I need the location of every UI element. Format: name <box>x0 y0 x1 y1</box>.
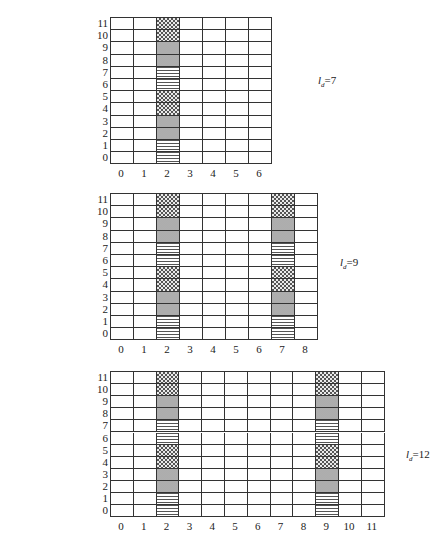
grid-cell <box>226 243 249 255</box>
x-tick-label: 5 <box>225 343 247 355</box>
grid-cell <box>225 408 248 420</box>
grid-cell <box>295 194 318 206</box>
grid-cell <box>111 103 134 115</box>
grid-cell <box>295 255 318 267</box>
grid-cell-stripe <box>272 243 295 255</box>
grid-cell <box>226 152 249 164</box>
grid-cell <box>134 316 157 328</box>
grid-cell <box>249 91 272 103</box>
grid-cell-stripe <box>157 152 180 164</box>
x-tick-label: 6 <box>247 520 269 532</box>
grid-cell <box>180 103 203 115</box>
grid-cell <box>134 408 157 420</box>
grid-cell-check <box>157 384 180 396</box>
grid-cell-gray <box>157 408 180 420</box>
grid-cell <box>248 505 271 517</box>
grid-cell-stripe <box>272 316 295 328</box>
grid-cell <box>134 194 157 206</box>
grid-cell-stripe <box>157 505 180 517</box>
grid-cell <box>134 396 157 408</box>
x-tick-label: 11 <box>361 520 383 532</box>
grid-cell <box>339 493 362 505</box>
y-tick-label: 6 <box>92 254 108 266</box>
grid-cell <box>271 420 294 432</box>
grid-cell <box>134 152 157 164</box>
grid-cell <box>226 128 249 140</box>
grid-cell <box>134 279 157 291</box>
grid-cell <box>249 128 272 140</box>
x-tick-label: 3 <box>178 520 200 532</box>
grid-cell-stripe <box>316 420 339 432</box>
grid-cell <box>248 457 271 469</box>
grid-cell <box>293 481 316 493</box>
grid-cell <box>249 79 272 91</box>
x-tick-label: 9 <box>315 520 337 532</box>
grid-cell <box>111 457 134 469</box>
grid-cell <box>180 304 203 316</box>
grid-cell <box>111 218 134 230</box>
grid-cell <box>362 372 385 384</box>
grid-cell <box>202 469 225 481</box>
grid-cell <box>225 420 248 432</box>
grid-cell <box>249 255 272 267</box>
grid-cell <box>134 469 157 481</box>
grid-cell <box>362 384 385 396</box>
y-tick-label: 2 <box>92 303 108 315</box>
y-tick-label: 6 <box>92 432 108 444</box>
grid-cell-gray <box>316 469 339 481</box>
grid-cell <box>203 128 226 140</box>
grid-cell <box>111 384 134 396</box>
grid-cell <box>111 55 134 67</box>
grid-cell <box>203 55 226 67</box>
grid-cell <box>180 30 203 42</box>
grid-cell <box>180 243 203 255</box>
grid-cell <box>271 481 294 493</box>
grid-cell-check <box>316 384 339 396</box>
y-tick-label: 2 <box>92 480 108 492</box>
grid-cell <box>180 279 203 291</box>
grid-cell <box>271 493 294 505</box>
grid-cell <box>226 328 249 340</box>
grid-cell <box>202 433 225 445</box>
grid-cell-gray <box>316 396 339 408</box>
grid-cell <box>203 140 226 152</box>
grid-cell-gray <box>157 481 180 493</box>
grid-cell <box>203 316 226 328</box>
grid-cell <box>248 372 271 384</box>
grid-cell <box>293 493 316 505</box>
x-tick-label: 2 <box>156 520 178 532</box>
grid-cell <box>248 433 271 445</box>
y-tick-label: 9 <box>92 395 108 407</box>
grid-cell <box>179 384 202 396</box>
grid-cell <box>295 218 318 230</box>
grid-cell <box>225 469 248 481</box>
grid-cell-stripe <box>272 328 295 340</box>
grid-cell <box>248 396 271 408</box>
grid-cell <box>339 408 362 420</box>
grid-cell <box>111 91 134 103</box>
grid-cell <box>339 505 362 517</box>
grid-cell <box>226 316 249 328</box>
grid-cell <box>203 206 226 218</box>
ld-label: ld=7 <box>318 74 336 89</box>
grid-cell <box>134 304 157 316</box>
grid-cell <box>134 243 157 255</box>
grid-cell <box>295 231 318 243</box>
grid-cell <box>134 255 157 267</box>
grid-cell <box>111 30 134 42</box>
grid-cell-stripe <box>157 316 180 328</box>
grid-cell <box>339 420 362 432</box>
grid-cell <box>248 493 271 505</box>
grid-cell <box>111 128 134 140</box>
grid-cell <box>134 328 157 340</box>
grid-cell <box>226 279 249 291</box>
grid-cell-gray <box>272 218 295 230</box>
grid-cell <box>179 408 202 420</box>
y-tick-label: 0 <box>92 327 108 339</box>
grid-cell-check <box>157 206 180 218</box>
grid-cell <box>134 91 157 103</box>
grid-cell <box>134 79 157 91</box>
grid-cell-gray <box>316 408 339 420</box>
grid-cell <box>293 420 316 432</box>
grid-cell-stripe <box>316 493 339 505</box>
